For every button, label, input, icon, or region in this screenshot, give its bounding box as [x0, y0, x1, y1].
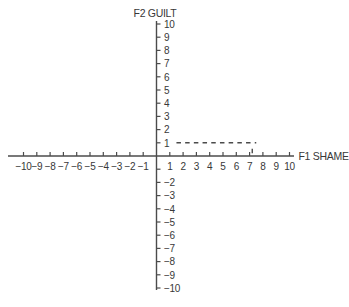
x-tick-label: 10 [284, 161, 295, 172]
y-tick-label: 8 [164, 45, 170, 56]
y-tick-label: −8 [164, 256, 176, 267]
x-tick-label: −9 [31, 161, 43, 172]
x-tick-label: −7 [58, 161, 70, 172]
y-tick-label: 1 [164, 138, 170, 149]
y-tick-label: −10 [164, 283, 181, 294]
y-tick-label: −6 [164, 230, 176, 241]
y-tick-label: −3 [164, 190, 176, 201]
y-tick-label: −4 [164, 204, 176, 215]
chart-canvas: −10−9−8−7−6−5−4−3−2−11234567891010987654… [0, 0, 349, 307]
y-tick-label: −2 [164, 177, 176, 188]
y-tick-label: 6 [164, 72, 170, 83]
x-tick-label: −6 [71, 161, 83, 172]
y-axis-title: F2 GUILT [134, 7, 178, 19]
y-tick-label: 4 [164, 98, 170, 109]
y-tick-label: 3 [164, 111, 170, 122]
y-tick-label: 2 [164, 124, 170, 135]
x-tick-label: 1 [167, 161, 173, 172]
y-tick-label: −7 [164, 243, 176, 254]
y-tick-label: −9 [164, 270, 176, 281]
x-tick-label: 2 [180, 161, 186, 172]
x-tick-label: 5 [220, 161, 226, 172]
shame-guilt-axes-figure: −10−9−8−7−6−5−4−3−2−11234567891010987654… [0, 0, 349, 307]
x-tick-label: 6 [234, 161, 240, 172]
x-tick-label: −4 [98, 161, 110, 172]
y-tick-label: −5 [164, 217, 176, 228]
x-tick-label: −2 [124, 161, 136, 172]
x-tick-label: 9 [274, 161, 280, 172]
x-tick-label: 3 [194, 161, 200, 172]
x-tick-label: 4 [207, 161, 213, 172]
x-tick-label: 8 [260, 161, 266, 172]
x-tick-label: −8 [45, 161, 57, 172]
x-tick-label: −5 [85, 161, 97, 172]
x-tick-label: 7 [247, 161, 253, 172]
y-tick-label: 10 [164, 19, 175, 30]
x-tick-label: −10 [15, 161, 32, 172]
y-tick-label: 9 [164, 32, 170, 43]
x-tick-label: −3 [111, 161, 123, 172]
x-tick-label: −1 [138, 161, 150, 172]
y-tick-label: 7 [164, 58, 170, 69]
x-axis-title: F1 SHAME [299, 150, 349, 162]
y-tick-label: 5 [164, 85, 170, 96]
